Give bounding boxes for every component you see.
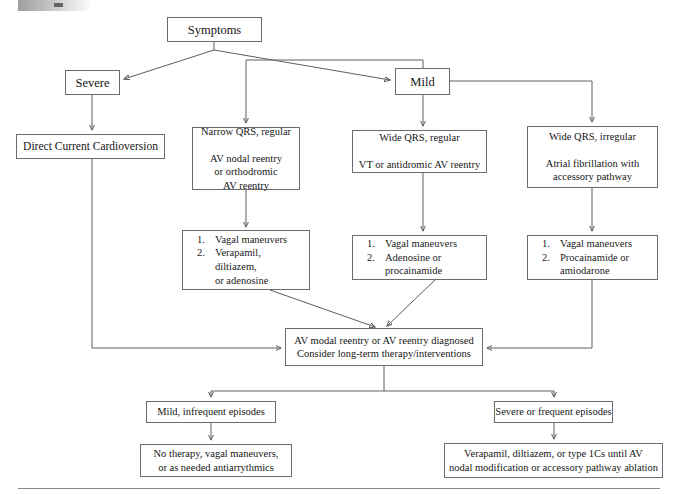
node-verapamil-ablation-label: Verapamil, diltiazem, or type 1Cs until … (445, 447, 662, 474)
node-wide-qrs-irregular[interactable]: Wide QRS, irregular Atrial fibrillation … (527, 126, 658, 188)
footer-rule (18, 488, 660, 489)
node-no-therapy[interactable]: No therapy, vagal maneuvers, or as neede… (140, 444, 292, 477)
node-diagnosis-label: AV modal reentry or AV reentry diagnosed… (286, 334, 482, 361)
list-number: 2. (359, 251, 385, 265)
node-direct-current-cardioversion[interactable]: Direct Current Cardioversion (16, 134, 165, 159)
wire-diagnosis-to-mild-infrequent (211, 366, 384, 397)
list-number: 1. (359, 237, 385, 251)
cropped-figure-label-artifact (18, 0, 92, 11)
wire-diagnosis-to-severe-frequent (384, 391, 554, 397)
wire-narrow-therapy-to-diagnosis (270, 290, 375, 327)
list-number: 1. (189, 233, 215, 247)
node-wide-qrs-regular-label: Wide QRS, regular VT or antidromic AV re… (353, 131, 486, 171)
node-wide-qrs-irregular-label: Wide QRS, irregular Atrial fibrillation … (528, 130, 657, 184)
list-item: 2. Verapamil, diltiazem, or adenosine (189, 246, 303, 287)
node-mild-infrequent-label: Mild, infrequent episodes (147, 405, 275, 418)
node-mild-infrequent-episodes[interactable]: Mild, infrequent episodes (146, 401, 276, 423)
list-text: Procainamide or amiodarone (560, 251, 651, 278)
node-narrow-qrs-therapy[interactable]: 1. Vagal maneuvers 2. Verapamil, diltiaz… (182, 230, 310, 290)
list-item: 2. Procainamide or amiodarone (534, 251, 651, 278)
node-mild-label: Mild (396, 74, 449, 90)
wire-wide-regular-therapy-to-diagnosis (387, 280, 435, 326)
list-text: Vagal maneuvers (385, 237, 480, 251)
node-diagnosis[interactable]: AV modal reentry or AV reentry diagnosed… (285, 328, 483, 366)
wire-symptoms-to-mild (214, 50, 390, 80)
node-severe[interactable]: Severe (65, 70, 120, 95)
list-number: 2. (534, 251, 560, 265)
node-cardioversion-label: Direct Current Cardioversion (17, 139, 164, 154)
flowchart-canvas: Symptoms Severe Mild Direct Current Card… (0, 0, 676, 494)
wire-wide-irregular-therapy-to-diagnosis (487, 280, 592, 348)
list-number: 1. (534, 237, 560, 251)
list-text: Vagal maneuvers (560, 237, 651, 251)
wide-regular-therapy-rows: 1. Vagal maneuvers 2. Adenosine or proca… (359, 237, 480, 278)
narrow-qrs-therapy-rows: 1. Vagal maneuvers 2. Verapamil, diltiaz… (189, 233, 303, 288)
node-symptoms[interactable]: Symptoms (167, 17, 262, 42)
list-item: 1. Vagal maneuvers (189, 233, 303, 247)
wire-symptoms-to-severe (124, 50, 214, 79)
node-narrow-qrs-label: Narrow QRS, regular AV nodal reentry or … (193, 125, 299, 192)
node-symptoms-label: Symptoms (168, 22, 261, 38)
list-number: 2. (189, 246, 215, 260)
node-wide-regular-therapy[interactable]: 1. Vagal maneuvers 2. Adenosine or proca… (352, 235, 487, 280)
node-severe-frequent-episodes[interactable]: Severe or frequent episodes (494, 401, 613, 423)
list-text: Adenosine or procainamide (385, 251, 480, 278)
node-verapamil-ablation[interactable]: Verapamil, diltiazem, or type 1Cs until … (444, 443, 663, 478)
node-narrow-qrs-regular[interactable]: Narrow QRS, regular AV nodal reentry or … (192, 127, 300, 190)
wide-irregular-therapy-rows: 1. Vagal maneuvers 2. Procainamide or am… (534, 237, 651, 278)
node-no-therapy-label: No therapy, vagal maneuvers, or as neede… (141, 447, 291, 474)
node-severe-label: Severe (66, 75, 119, 91)
node-severe-frequent-label: Severe or frequent episodes (495, 405, 612, 418)
list-item: 1. Vagal maneuvers (359, 237, 480, 251)
node-wide-irregular-therapy[interactable]: 1. Vagal maneuvers 2. Procainamide or am… (527, 235, 658, 280)
node-wide-qrs-regular[interactable]: Wide QRS, regular VT or antidromic AV re… (352, 130, 487, 173)
list-text: Verapamil, diltiazem, or adenosine (215, 246, 303, 287)
list-item: 2. Adenosine or procainamide (359, 251, 480, 278)
wire-mild-to-wide-irregular (450, 81, 592, 122)
list-item: 1. Vagal maneuvers (534, 237, 651, 251)
list-text: Vagal maneuvers (215, 233, 303, 247)
node-mild[interactable]: Mild (395, 68, 450, 95)
